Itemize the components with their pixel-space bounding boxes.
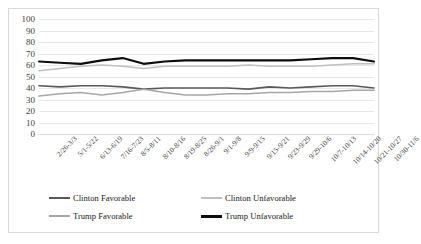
legend-label: Clinton Favorable (73, 193, 135, 203)
legend-swatch-icon (49, 197, 70, 199)
y-axis-tick-70: 70 (26, 49, 35, 58)
series-line-clinton-unfavorable (39, 64, 374, 71)
x-axis-tick: 9/9-9/15 (244, 135, 267, 158)
series-line-clinton-favorable (39, 86, 374, 89)
y-axis-tick-20: 20 (26, 107, 35, 116)
legend-item-trump-favorable[interactable]: Trump Favorable (49, 211, 201, 221)
x-axis: 2/26-3/35/1-5/226/13-6/197/16-7/238/5-8/… (39, 135, 374, 197)
y-axis-tick-80: 80 (26, 38, 35, 47)
legend-item-trump-unfavorable[interactable]: Trump Unfavorable (201, 211, 349, 221)
plot-area (39, 19, 374, 134)
y-axis-tick-60: 60 (26, 61, 35, 70)
y-axis-tick-100: 100 (22, 15, 36, 24)
y-axis-tick-90: 90 (26, 26, 35, 35)
legend-item-clinton-favorable[interactable]: Clinton Favorable (49, 193, 201, 203)
y-axis-tick-10: 10 (26, 118, 35, 127)
chart-frame: 1009080706050403020100 2/26-3/35/1-5/226… (8, 8, 379, 233)
legend-swatch-icon (201, 215, 222, 218)
legend-label: Trump Favorable (73, 211, 133, 221)
y-axis: 1009080706050403020100 (9, 19, 37, 134)
x-axis-tick: 9/1-9/8 (222, 135, 243, 156)
y-axis-tick-30: 30 (26, 95, 35, 104)
legend-swatch-icon (201, 197, 222, 199)
series-line-trump-unfavorable (39, 58, 374, 64)
series-lines (39, 19, 374, 134)
chart-legend: Clinton FavorableClinton UnfavorableTrum… (49, 193, 349, 221)
legend-label: Trump Unfavorable (225, 211, 293, 221)
legend-item-clinton-unfavorable[interactable]: Clinton Unfavorable (201, 193, 349, 203)
legend-swatch-icon (49, 215, 70, 217)
legend-label: Clinton Unfavorable (225, 193, 296, 203)
series-line-trump-favorable (39, 89, 374, 96)
y-axis-tick-40: 40 (26, 84, 35, 93)
y-axis-tick-50: 50 (26, 72, 35, 81)
y-axis-tick-0: 0 (31, 130, 36, 139)
x-axis-tick: 2/26-3/3 (55, 135, 78, 158)
x-axis-tick: 5/1-5/22 (76, 135, 99, 158)
